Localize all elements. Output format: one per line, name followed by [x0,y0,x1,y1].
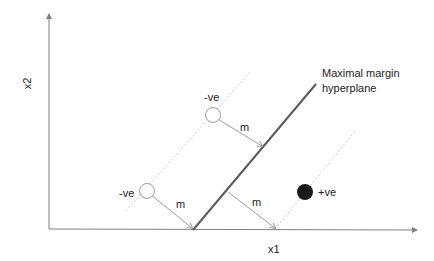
negative-label-lower: -ve [119,187,134,200]
positive-label: +ve [318,186,336,199]
negative-point-lower [140,184,155,199]
negative-label-upper: -ve [204,91,219,104]
margin-label-upper: m [240,121,249,134]
x-axis-label: x1 [268,243,280,256]
positive-point [297,184,313,200]
x-axis [49,229,417,230]
margin-arrow-upper [216,118,262,146]
svm-diagram [0,0,434,261]
hyperplane-label-line1: Maximal margin [322,67,400,80]
margin-arrow-lower [150,194,192,228]
hyperplane-label-line2: hyperplane [322,82,376,95]
y-axis-label: x2 [21,78,34,90]
margin-label-lower: m [176,198,185,211]
negative-point-upper [206,108,221,123]
margin-line-positive [275,130,356,229]
margin-label-right: m [252,196,261,209]
